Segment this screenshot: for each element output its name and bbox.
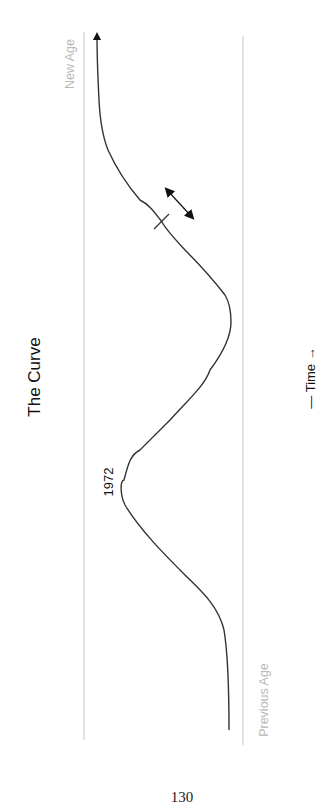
- peak-year-label: 1972: [101, 468, 116, 497]
- time-axis-label: — Time →: [303, 347, 318, 408]
- new-age-label: New Age: [63, 39, 77, 89]
- curve-diagram: [0, 0, 332, 810]
- previous-age-label: Previous Age: [257, 663, 271, 737]
- time-axis-text: — Time →: [303, 347, 318, 408]
- page-number: 130: [171, 789, 194, 806]
- diagram-canvas: New Age Previous Age The Curve 1972 — Ti…: [0, 0, 332, 810]
- double-arrow-icon: [168, 191, 191, 216]
- diagram-title: The Curve: [25, 337, 45, 416]
- the-curve: [97, 36, 231, 730]
- tick-mark: [154, 214, 169, 229]
